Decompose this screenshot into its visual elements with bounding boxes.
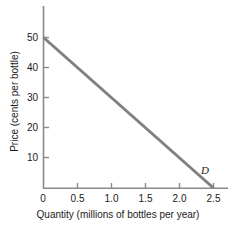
demand-curve-chart: 50 40 30 20 10 0 0.5 1.0 1.5 2.0 2.5 D Q… [0, 0, 236, 230]
y-axis-title: Price (cents per bottle) [9, 12, 20, 192]
demand-curve-line [44, 38, 214, 189]
demand-curve-label: D [201, 165, 209, 176]
x-tick-label-1-0: 1.0 [105, 194, 119, 204]
x-tick-label-2-5: 2.5 [207, 194, 221, 204]
x-tick-label-1-5: 1.5 [139, 194, 153, 204]
x-tick-label-0-5: 0.5 [71, 194, 85, 204]
x-tick-label-2-0: 2.0 [173, 194, 187, 204]
x-tick-label-0: 0 [40, 194, 46, 204]
x-axis-title: Quantity (millions of bottles per year) [0, 209, 236, 220]
